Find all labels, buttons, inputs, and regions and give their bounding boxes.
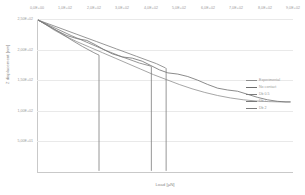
legend: Experimental No contact Db 0.5 Db 1 Db 2 (246, 77, 280, 112)
chart-container: 0,0E+00 1,0E+02 2,0E+02 3,0E+02 4,0E+02 … (0, 0, 305, 195)
legend-item[interactable]: Db 2 (246, 105, 280, 112)
series-line (38, 20, 166, 170)
legend-item-label: Db 2 (259, 105, 267, 112)
legend-item-label: Db 0.5 (259, 91, 270, 98)
legend-item[interactable]: Db 1 (246, 98, 280, 105)
legend-item-label: No contact (259, 84, 276, 91)
legend-line-icon (246, 101, 257, 102)
x-axis-title: Load [µN] (37, 182, 293, 187)
y-axis-title: Z displacement [nm] (5, 20, 10, 110)
legend-item-label: Db 1 (259, 98, 267, 105)
legend-item-label: Experimental (259, 77, 280, 84)
legend-item[interactable]: No contact (246, 84, 280, 91)
series-line (38, 20, 151, 170)
legend-line-icon (246, 94, 257, 95)
legend-item[interactable]: Experimental (246, 77, 280, 84)
series-line (38, 20, 99, 170)
legend-line-icon (246, 80, 257, 81)
legend-line-icon (246, 108, 257, 109)
legend-item[interactable]: Db 0.5 (246, 91, 280, 98)
legend-line-icon (246, 87, 257, 88)
